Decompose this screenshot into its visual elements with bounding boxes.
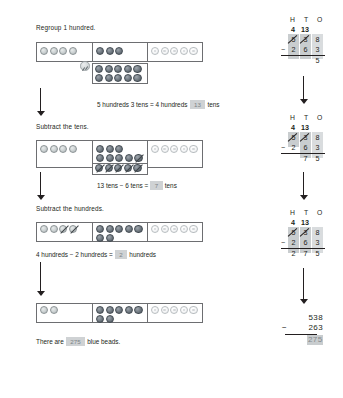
bead-hundred-crossed — [59, 225, 67, 233]
block-2-minuend-ones: 8 — [312, 133, 323, 142]
step-3-tens-row-1 — [96, 225, 143, 233]
header-letter-o: O — [317, 16, 326, 23]
step-2-answer-box[interactable]: 7 — [150, 181, 162, 190]
block-1-subtrahend-ones: 3 — [312, 45, 323, 54]
step-3-tens-row-2 — [96, 234, 114, 242]
bead-hundred — [40, 306, 48, 314]
bead-ten — [125, 225, 133, 233]
bead-ten — [106, 225, 114, 233]
bead-ten — [96, 145, 104, 153]
bead-ten-crossed — [134, 154, 142, 162]
step-2-tens-row-2 — [96, 154, 143, 162]
bead-hundred — [59, 145, 67, 153]
header-letter-h: H — [290, 114, 299, 121]
bead-ten — [115, 145, 123, 153]
final-answer[interactable]: 275 — [307, 335, 323, 345]
block-3-subtrahend-tens: 6 — [300, 238, 311, 247]
block-3-minus-sign: − — [281, 238, 285, 247]
block-1-regroup-tens: 13 — [298, 25, 312, 34]
bead-hundred — [50, 306, 58, 314]
block-3-regroup-hundreds: 4 — [288, 218, 298, 227]
header-letter-t: T — [304, 114, 312, 121]
block-1-difference-ones: 5 — [312, 56, 323, 65]
header-letter-h: H — [290, 209, 299, 216]
step-1-equation-prefix: 5 hundreds 3 tens = 4 hundreds — [97, 101, 187, 108]
bead-ten — [133, 65, 141, 73]
arrow-shaft — [40, 88, 41, 112]
bead-one — [161, 47, 169, 55]
bead-ten — [125, 154, 133, 162]
step-4-divider-h-t — [92, 303, 93, 323]
block-3-subtrahend-hundreds: 2 — [288, 238, 299, 247]
bead-hundred — [59, 47, 67, 55]
bead-ten — [124, 65, 132, 73]
bead-one — [180, 225, 188, 233]
block-1-subtrahend-tens: 6 — [300, 45, 311, 54]
bead-ten — [106, 145, 114, 153]
step-3-divider-t-o — [147, 222, 148, 242]
block-2-minus-sign: − — [281, 143, 285, 152]
arrow-head-icon — [300, 195, 308, 200]
step-1-divider-t-o — [147, 42, 148, 62]
bead-one — [161, 306, 169, 314]
arrow-shaft — [303, 172, 304, 196]
block-3-difference-tens: 7 — [300, 249, 311, 258]
bead-ten — [96, 306, 104, 314]
arrow-shaft — [303, 76, 304, 100]
step-2-equation-suffix: tens — [165, 182, 177, 189]
block-1-subtrahend-hundreds: 2 — [288, 45, 299, 54]
bead-one — [180, 145, 188, 153]
bead-ten — [115, 225, 123, 233]
result-sentence: There are 275 blue beads. — [36, 337, 120, 346]
bead-ten — [133, 74, 141, 82]
bead-ten — [106, 234, 114, 242]
step-1-equation: 5 hundreds 3 tens = 4 hundreds 13 tens — [97, 100, 220, 109]
step-3-equation-prefix: 4 hundreds − 2 hundreds = — [36, 251, 113, 258]
header-letter-h: H — [290, 16, 299, 23]
bead-hundred — [50, 145, 58, 153]
block-3-minuend-ones: 8 — [312, 228, 323, 237]
header-letter-o: O — [317, 114, 326, 121]
arrow-head-icon — [37, 291, 45, 296]
bead-ten — [95, 74, 103, 82]
bead-ten — [95, 65, 103, 73]
step-4-tens-row-1 — [96, 306, 143, 314]
block-1-minuend-ones: 8 — [312, 35, 323, 44]
step-3-equation: 4 hundreds − 2 hundreds = 2 hundreds — [36, 250, 156, 259]
regroup-swirl-icon — [78, 60, 92, 74]
step-4-tens-row-2 — [96, 315, 114, 323]
bead-ten-crossed — [95, 164, 103, 172]
bead-hundred — [40, 145, 48, 153]
arrow-head-icon — [300, 299, 308, 304]
worksheet-page: Regroup 1 hundred. — [0, 0, 343, 398]
arrow-head-icon — [300, 99, 308, 104]
block-3-to-final-arrow — [299, 268, 308, 306]
bead-one — [189, 225, 197, 233]
header-letter-t: T — [304, 209, 312, 216]
step-2-to-3-arrow — [36, 172, 45, 202]
bead-hundred — [50, 47, 58, 55]
bead-one — [189, 47, 197, 55]
step-1-tens-beads-in-frame — [96, 47, 123, 55]
bead-one — [151, 306, 159, 314]
bead-ten-crossed — [105, 164, 113, 172]
result-answer-box[interactable]: 275 — [66, 337, 85, 346]
step-2-hundreds-beads — [40, 145, 77, 153]
bead-ten — [96, 154, 104, 162]
step-4-divider-t-o — [147, 303, 148, 323]
arrow-head-icon — [37, 195, 45, 200]
step-3-answer-box[interactable]: 2 — [115, 250, 127, 259]
block-2-hto-header: H T O — [290, 114, 326, 121]
arrow-shaft — [40, 262, 41, 292]
step-2-equation-prefix: 13 tens − 6 tens = — [97, 182, 148, 189]
step-1-answer-box[interactable]: 13 — [190, 100, 206, 109]
step-1-equation-suffix: tens — [207, 101, 219, 108]
block-2-difference-ones: 5 — [312, 154, 323, 163]
bead-ten — [115, 47, 123, 55]
step-1-regrouped-tens-row-2 — [95, 74, 142, 82]
block-3-hto-header: H T O — [290, 209, 326, 216]
step-2-tens-row-1 — [96, 145, 123, 153]
block-2-subtrahend-tens: 6 — [300, 143, 311, 152]
bead-one — [180, 306, 188, 314]
block-3-difference-ones: 5 — [312, 249, 323, 258]
